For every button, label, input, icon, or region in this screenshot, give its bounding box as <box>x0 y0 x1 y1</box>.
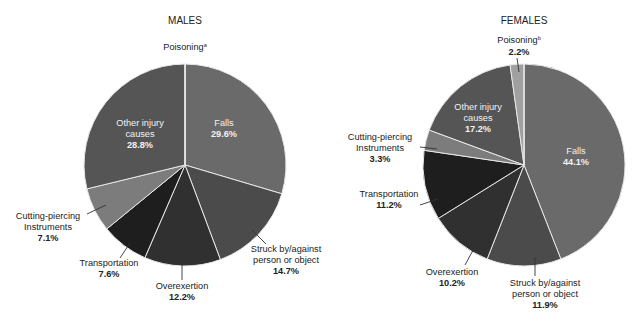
females-overexertion-label: Overexertion <box>426 267 479 277</box>
females-poisoning-label: Poisoningb <box>497 35 540 45</box>
males-struck-label-line1: Struck by/against <box>251 244 322 254</box>
males-cutting-value: 7.1% <box>38 233 59 243</box>
males-other-label-line1: Other injury <box>116 118 164 128</box>
females-struck-label-line1: Struck by/against <box>510 278 581 288</box>
females-cutting-label-line1: Cutting-piercing <box>348 132 412 142</box>
females-poisoning-value: 2.2% <box>509 47 530 57</box>
males-struck-label-line2: person or object <box>253 255 319 265</box>
females-other-label-line2: causes <box>463 113 493 123</box>
females-title: FEMALES <box>501 15 548 26</box>
females-cutting-value: 3.3% <box>370 154 391 164</box>
females-falls-value: 44.1% <box>563 157 589 167</box>
females-struck-label-line2: person or object <box>512 289 578 299</box>
females-overexertion-value: 10.2% <box>439 278 465 288</box>
females-other-label-line1: Other injury <box>454 102 502 112</box>
injury-causes-pie-charts: MALES Poisoninga Other injury causes 28.… <box>0 0 641 321</box>
females-other-value: 17.2% <box>465 124 491 134</box>
males-other-label-line2: causes <box>125 129 155 139</box>
males-title: MALES <box>168 15 202 26</box>
males-chart: MALES Poisoninga Other injury causes 28.… <box>16 15 322 302</box>
females-falls-label: Falls <box>566 146 586 156</box>
females-transportation-value: 11.2% <box>376 200 402 210</box>
males-poisoning-label: Poisoninga <box>163 42 207 52</box>
females-cutting-label-line2: Instruments <box>356 143 404 153</box>
females-chart: FEMALES Poisoningb 2.2% Other injury cau… <box>348 15 625 310</box>
males-cutting-label-line2: Instruments <box>24 222 72 232</box>
females-pie <box>423 64 625 266</box>
males-overexertion-value: 12.2% <box>169 292 195 302</box>
males-pie <box>84 64 286 266</box>
females-struck-value: 11.9% <box>532 300 558 310</box>
males-overexertion-label: Overexertion <box>156 281 209 291</box>
males-cutting-label-line1: Cutting-piercing <box>16 211 80 221</box>
males-transportation-label: Transportation <box>80 258 139 268</box>
males-falls-label: Falls <box>214 118 234 128</box>
females-transportation-label: Transportation <box>360 189 419 199</box>
males-other-value: 28.8% <box>127 140 153 150</box>
males-falls-value: 29.6% <box>211 129 237 139</box>
males-transportation-value: 7.6% <box>99 269 120 279</box>
males-struck-value: 14.7% <box>273 266 299 276</box>
